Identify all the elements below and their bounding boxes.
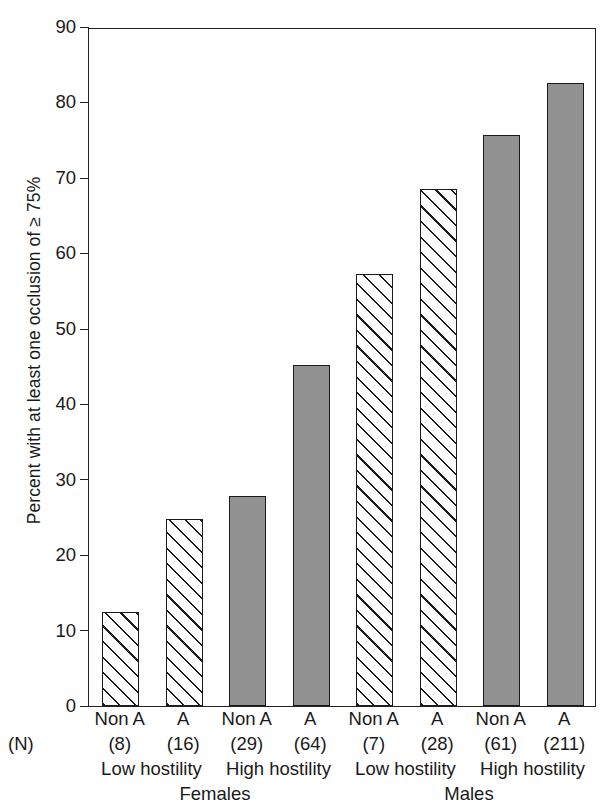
- hostility-group-label: High hostility: [458, 758, 608, 780]
- bar-2: [166, 519, 203, 706]
- y-axis-tick: [80, 329, 89, 330]
- bar-6: [420, 189, 457, 706]
- x-axis-sex-row: FemalesMales: [0, 783, 612, 807]
- x-category-label: A: [524, 708, 604, 730]
- bar-4: [293, 365, 330, 706]
- x-n-value: (211): [524, 733, 604, 755]
- n-row-label: (N): [8, 733, 34, 755]
- y-axis-tick: [80, 102, 89, 103]
- y-axis-title: Percent with at least one occlusion of ≥…: [24, 21, 45, 681]
- y-axis-tick: [80, 630, 89, 631]
- sex-group-label: Females: [135, 783, 295, 805]
- y-axis-tick: [80, 404, 89, 405]
- y-axis-tick: [80, 253, 89, 254]
- bar-8: [547, 83, 584, 706]
- x-axis-category-row: Non AANon AANon AANon AA: [0, 708, 612, 732]
- y-axis-title-container: Percent with at least one occlusion of ≥…: [0, 0, 34, 720]
- y-axis-tick: [80, 27, 89, 28]
- bar-7: [483, 135, 520, 706]
- x-axis-n-row: (8)(16)(29)(64)(7)(28)(61)(211): [0, 733, 612, 757]
- x-axis-hostility-row: Low hostilityHigh hostilityLow hostility…: [0, 758, 612, 782]
- x-axis-label-block: Non AANon AANon AANon AA (8)(16)(29)(64)…: [0, 708, 612, 811]
- chart-figure: Percent with at least one occlusion of ≥…: [0, 0, 612, 811]
- y-axis-tick: [80, 178, 89, 179]
- sex-group-label: Males: [389, 783, 549, 805]
- bar-1: [102, 612, 139, 706]
- y-axis-tick: [80, 555, 89, 556]
- bar-3: [229, 496, 266, 706]
- bar-5: [356, 274, 393, 706]
- plot-area: [88, 28, 596, 707]
- y-axis-tick: [80, 706, 89, 707]
- y-axis-tick: [80, 479, 89, 480]
